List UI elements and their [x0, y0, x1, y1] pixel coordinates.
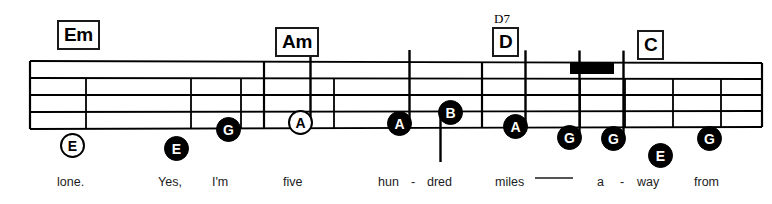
note-beam-group: [570, 63, 614, 74]
lyric-syllable: miles: [495, 176, 524, 189]
lyric-syllable: Yes,: [158, 176, 182, 189]
lyric-syllable: dred: [427, 176, 452, 189]
notehead-g[interactable]: G: [216, 117, 241, 142]
chord-alternate-label: D7: [494, 12, 510, 25]
staff-line: [30, 61, 762, 63]
notehead-e[interactable]: E: [60, 133, 85, 158]
lyric-syllable: -: [620, 176, 624, 189]
notehead-g[interactable]: G: [557, 125, 582, 150]
lyric-syllable: -: [411, 176, 415, 189]
notehead-b[interactable]: B: [438, 100, 463, 125]
notehead-e[interactable]: E: [648, 143, 673, 168]
notehead-a[interactable]: A: [503, 114, 528, 139]
chord-symbol-am[interactable]: Am: [275, 27, 319, 57]
chord-symbol-c[interactable]: C: [637, 30, 664, 60]
notehead-g[interactable]: G: [697, 126, 722, 151]
chord-symbol-em[interactable]: Em: [57, 20, 100, 50]
notehead-g[interactable]: G: [601, 126, 626, 151]
notehead-a[interactable]: A: [288, 110, 313, 135]
staff-line: [30, 78, 762, 79]
lyric-syllable: way: [637, 176, 659, 189]
notehead-a[interactable]: A: [387, 111, 412, 136]
lyric-syllable: a: [597, 176, 604, 189]
chord-symbol-d[interactable]: D: [492, 27, 519, 57]
music-sheet-staff-system: EmAmD7DC EEGAABAGGEG lone.Yes,I'mfivehun…: [0, 0, 772, 204]
lyric-syllable: hun: [378, 176, 399, 189]
eighth-note-beam: [570, 63, 614, 74]
lyric-syllable: lone.: [57, 176, 84, 189]
lyric-syllable: from: [694, 176, 719, 189]
notehead-e[interactable]: E: [164, 136, 189, 161]
lyric-syllable: I'm: [212, 176, 228, 189]
lyric-syllable: five: [283, 176, 302, 189]
